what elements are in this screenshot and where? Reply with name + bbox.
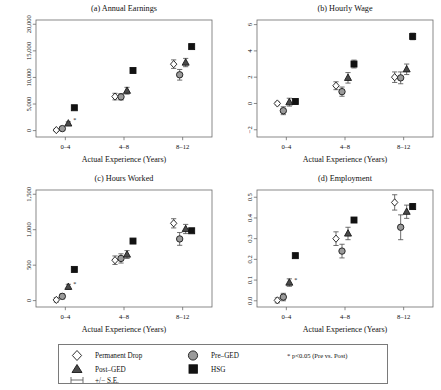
square-marker <box>189 228 195 234</box>
figure-container: (a) Annual Earnings05,00010,00015,00020,… <box>0 0 441 390</box>
legend-entry-pre-ged: Pre–GED <box>188 351 239 360</box>
legend-entry-hsg: HSG <box>189 365 225 374</box>
diamond-marker <box>112 93 118 100</box>
triangle-marker <box>286 279 293 285</box>
x-axis-title: Actual Experience (Years) <box>303 155 388 164</box>
x-tick-label: 4–8 <box>340 143 351 150</box>
circle-marker <box>118 94 124 100</box>
significance-star: * <box>73 117 76 123</box>
significance-star: * <box>294 277 297 283</box>
series-square <box>292 204 415 259</box>
triangle-marker <box>182 59 189 65</box>
series-square <box>71 44 194 111</box>
y-tick-label: 0.1 <box>246 276 253 284</box>
diamond-marker <box>333 82 339 89</box>
plot-frame <box>36 20 212 137</box>
circle-marker <box>188 351 197 360</box>
triangle-marker <box>345 74 352 80</box>
circle-marker <box>280 294 286 300</box>
triangle-marker <box>124 87 131 93</box>
diamond-marker <box>112 257 118 264</box>
series-square <box>71 228 194 273</box>
series-triangle: * <box>65 224 189 289</box>
y-tick-label: 20,000 <box>25 14 32 33</box>
square-marker <box>71 105 77 111</box>
panel-hourly-wage: (b) Hourly Wage−202460–44–88–12Actual Ex… <box>221 0 441 174</box>
series-circle <box>280 72 404 115</box>
square-marker <box>189 365 197 373</box>
x-axis-title: Actual Experience (Years) <box>82 155 167 164</box>
diamond-marker <box>53 126 59 133</box>
y-tick-label: 0 <box>246 101 253 105</box>
series-triangle <box>286 64 410 106</box>
series-triangle: * <box>65 58 189 126</box>
circle-marker <box>118 255 124 261</box>
diamond-marker <box>274 100 280 107</box>
y-tick-label: 0 <box>25 128 32 132</box>
legend: Permanent Drop Post–GED +/− S.E. Pre–GED… <box>58 344 388 384</box>
y-tick-label: 1,500 <box>25 186 32 202</box>
y-tick-label: 1,000 <box>25 222 32 238</box>
square-marker <box>189 44 195 50</box>
circle-marker <box>397 75 403 81</box>
panel-title-b: (b) Hourly Wage <box>317 4 372 13</box>
x-tick-label: 4–8 <box>119 313 130 320</box>
panel-hours-worked: (c) Hours Worked05001,0001,5000–44–88–12… <box>0 170 220 344</box>
y-tick-label: 2 <box>246 76 253 79</box>
square-marker <box>292 253 298 259</box>
triangle-marker <box>403 208 410 214</box>
y-tick-label: 6 <box>246 22 253 26</box>
x-tick-label: 8–12 <box>176 313 189 320</box>
legend-label-permanent-drop: Permanent Drop <box>95 352 143 360</box>
diamond-marker <box>72 351 81 361</box>
chart-b: (b) Hourly Wage−202460–44–88–12Actual Ex… <box>221 0 441 170</box>
y-tick-label: 10,000 <box>25 68 32 87</box>
x-tick-label: 4–8 <box>340 313 351 320</box>
diamond-marker <box>391 74 397 81</box>
series-square <box>292 33 415 104</box>
y-tick-label: 0.5 <box>246 192 253 201</box>
panel-annual-earnings: (a) Annual Earnings05,00010,00015,00020,… <box>0 0 220 174</box>
square-marker <box>410 204 416 210</box>
square-marker <box>292 99 298 105</box>
panel-title-c: (c) Hours Worked <box>95 174 154 183</box>
x-axis-title: Actual Experience (Years) <box>82 325 167 334</box>
series-diamond <box>274 195 398 304</box>
triangle-marker <box>345 230 352 236</box>
diamond-marker <box>391 199 397 206</box>
triangle-marker <box>286 98 293 104</box>
legend-entry-permanent-drop: Permanent Drop <box>72 351 142 361</box>
y-tick-label: 5,000 <box>25 96 32 112</box>
circle-marker <box>397 224 403 230</box>
circle-marker <box>59 293 65 299</box>
square-marker <box>351 217 357 223</box>
x-tick-label: 8–12 <box>176 143 189 150</box>
panel-title-d: (d) Employment <box>318 174 373 183</box>
y-tick-label: 0.2 <box>246 255 253 263</box>
legend-entry-post-ged: Post–GED <box>72 365 126 375</box>
y-tick-label: 4 <box>246 49 253 53</box>
y-tick-label: 0.0 <box>246 296 253 305</box>
x-axis-title: Actual Experience (Years) <box>303 325 388 334</box>
circle-marker <box>339 248 345 254</box>
diamond-marker <box>170 61 176 68</box>
x-tick-label: 4–8 <box>119 143 130 150</box>
diamond-marker <box>170 220 176 227</box>
diamond-marker <box>333 235 339 242</box>
triangle-marker <box>124 251 131 257</box>
triangle-marker <box>182 225 189 231</box>
y-tick-label: 15,000 <box>25 41 32 60</box>
y-tick-label: 500 <box>25 260 32 271</box>
chart-a: (a) Annual Earnings05,00010,00015,00020,… <box>0 0 220 170</box>
circle-marker <box>176 236 182 242</box>
square-marker <box>71 266 77 272</box>
triangle-marker <box>72 365 82 373</box>
square-marker <box>130 68 136 74</box>
square-marker <box>130 238 136 244</box>
legend-entry-standard-error: +/− S.E. <box>71 377 119 385</box>
panel-title-a: (a) Annual Earnings <box>91 4 157 13</box>
x-tick-label: 8–12 <box>397 143 410 150</box>
series-diamond <box>53 219 177 304</box>
legend-label-hsg: HSG <box>211 366 225 374</box>
triangle-marker <box>65 120 72 126</box>
